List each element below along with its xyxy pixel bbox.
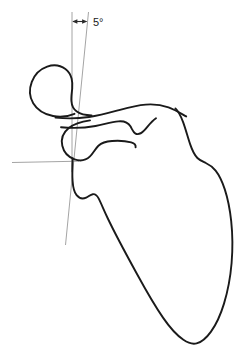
horizontal-reference-line: [12, 161, 79, 162]
angle-annotation-group: [72, 19, 87, 23]
scapula-diagram-svg: 5°: [0, 0, 251, 362]
spine-undersurface-outline: [61, 118, 156, 134]
angle-arrow-head-left: [72, 19, 77, 23]
angle-label: 5°: [93, 16, 104, 28]
figure-root: 5°: [0, 0, 251, 362]
glenoid-neck-outline: [62, 120, 136, 160]
lateral-border-outline: [72, 108, 232, 343]
angle-arrow-head-right: [82, 19, 87, 23]
scapula-outline-group: [30, 65, 232, 343]
